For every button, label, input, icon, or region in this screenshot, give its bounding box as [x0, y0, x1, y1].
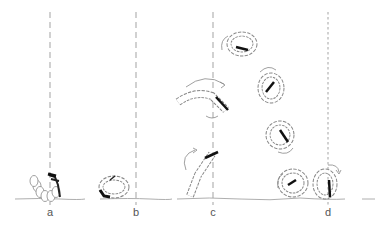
vertical-guides	[50, 12, 328, 205]
diagram-canvas	[0, 0, 386, 229]
larva-flight-wheel-3	[268, 123, 293, 153]
larva-flight-wheel-1	[222, 34, 255, 54]
stage-label-a: a	[47, 206, 53, 218]
larva-stage-c-airborne	[178, 79, 228, 118]
larva-jump-diagram: a b c d	[0, 0, 386, 229]
stage-label-b: b	[133, 206, 139, 218]
stage-label-c: c	[210, 206, 216, 218]
larva-flight-wheel-2	[260, 67, 282, 101]
stage-label-d: d	[325, 206, 331, 218]
larva-stage-b	[100, 176, 127, 197]
larva-stage-a	[30, 174, 60, 202]
larva-landing-wheel	[278, 171, 306, 195]
